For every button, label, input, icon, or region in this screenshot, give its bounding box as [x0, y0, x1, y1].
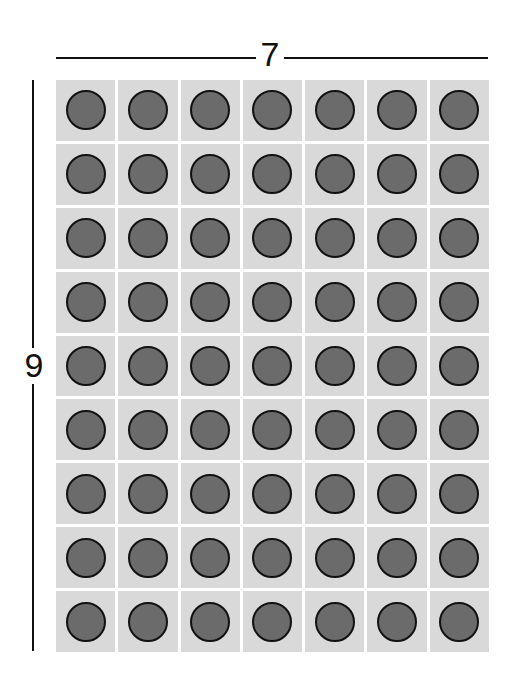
array-cell: [181, 208, 240, 269]
array-cell: [118, 208, 177, 269]
counter-circle-icon: [252, 538, 292, 578]
counter-circle-icon: [66, 538, 106, 578]
rows-label: 9: [22, 348, 46, 382]
counter-circle-icon: [252, 90, 292, 130]
counter-circle-icon: [66, 154, 106, 194]
array-cell: [118, 399, 177, 460]
array-cell: [56, 144, 115, 205]
counter-circle-icon: [190, 90, 230, 130]
counter-circle-icon: [439, 346, 479, 386]
counter-circle-icon: [252, 474, 292, 514]
counter-circle-icon: [377, 218, 417, 258]
array-cell: [430, 399, 489, 460]
counter-circle-icon: [66, 410, 106, 450]
array-cell: [430, 208, 489, 269]
counter-circle-icon: [190, 410, 230, 450]
array-cell: [243, 591, 302, 652]
counter-circle-icon: [66, 602, 106, 642]
counter-circle-icon: [66, 474, 106, 514]
array-cell: [305, 463, 364, 524]
counter-circle-icon: [439, 410, 479, 450]
array-cell: [56, 208, 115, 269]
array-cell: [430, 336, 489, 397]
counter-circle-icon: [377, 538, 417, 578]
counter-circle-icon: [315, 218, 355, 258]
array-cell: [118, 272, 177, 333]
counter-circle-icon: [315, 410, 355, 450]
array-cell: [56, 591, 115, 652]
counter-circle-icon: [128, 474, 168, 514]
array-cell: [430, 527, 489, 588]
array-cell: [367, 591, 426, 652]
counter-circle-icon: [439, 282, 479, 322]
counter-circle-icon: [439, 602, 479, 642]
columns-dimension-line-right: [284, 57, 488, 59]
array-cell: [181, 272, 240, 333]
counter-circle-icon: [315, 538, 355, 578]
array-cell: [118, 527, 177, 588]
array-cell: [305, 144, 364, 205]
counter-circle-icon: [377, 410, 417, 450]
array-cell: [305, 272, 364, 333]
array-cell: [56, 336, 115, 397]
counter-circle-icon: [190, 282, 230, 322]
array-cell: [305, 208, 364, 269]
counter-circle-icon: [128, 602, 168, 642]
array-cell: [243, 208, 302, 269]
array-cell: [181, 399, 240, 460]
array-cell: [367, 463, 426, 524]
array-cell: [118, 144, 177, 205]
array-cell: [181, 80, 240, 141]
counter-circle-icon: [377, 474, 417, 514]
counter-circle-icon: [190, 602, 230, 642]
counter-circle-icon: [252, 346, 292, 386]
counter-circle-icon: [252, 410, 292, 450]
array-cell: [56, 272, 115, 333]
array-cell: [243, 527, 302, 588]
array-cell: [243, 144, 302, 205]
columns-dimension-line-left: [56, 57, 256, 59]
counter-circle-icon: [377, 154, 417, 194]
counter-circle-icon: [377, 346, 417, 386]
array-cell: [367, 208, 426, 269]
counter-circle-icon: [190, 346, 230, 386]
array-cell: [181, 527, 240, 588]
array-cell: [430, 463, 489, 524]
array-cell: [367, 527, 426, 588]
counter-circle-icon: [66, 346, 106, 386]
array-cell: [181, 336, 240, 397]
array-cell: [305, 527, 364, 588]
counter-circle-icon: [128, 218, 168, 258]
counter-circle-icon: [128, 90, 168, 130]
array-cell: [118, 463, 177, 524]
counter-circle-icon: [439, 218, 479, 258]
counter-circle-icon: [377, 602, 417, 642]
counter-array-grid: [56, 80, 489, 652]
array-cell: [367, 144, 426, 205]
array-cell: [367, 399, 426, 460]
array-cell: [430, 591, 489, 652]
array-cell: [305, 80, 364, 141]
counter-circle-icon: [128, 346, 168, 386]
rows-dimension-line-top: [32, 80, 34, 348]
counter-circle-icon: [66, 218, 106, 258]
array-cell: [56, 463, 115, 524]
array-cell: [56, 80, 115, 141]
array-cell: [118, 336, 177, 397]
array-cell: [118, 591, 177, 652]
counter-circle-icon: [439, 154, 479, 194]
counter-circle-icon: [377, 282, 417, 322]
counter-circle-icon: [315, 90, 355, 130]
counter-circle-icon: [315, 346, 355, 386]
array-cell: [56, 399, 115, 460]
counter-circle-icon: [66, 282, 106, 322]
counter-circle-icon: [252, 218, 292, 258]
counter-circle-icon: [128, 538, 168, 578]
counter-circle-icon: [190, 154, 230, 194]
columns-label: 7: [258, 37, 282, 71]
array-cell: [56, 527, 115, 588]
counter-circle-icon: [315, 602, 355, 642]
array-cell: [367, 272, 426, 333]
array-cell: [181, 591, 240, 652]
array-cell: [430, 80, 489, 141]
